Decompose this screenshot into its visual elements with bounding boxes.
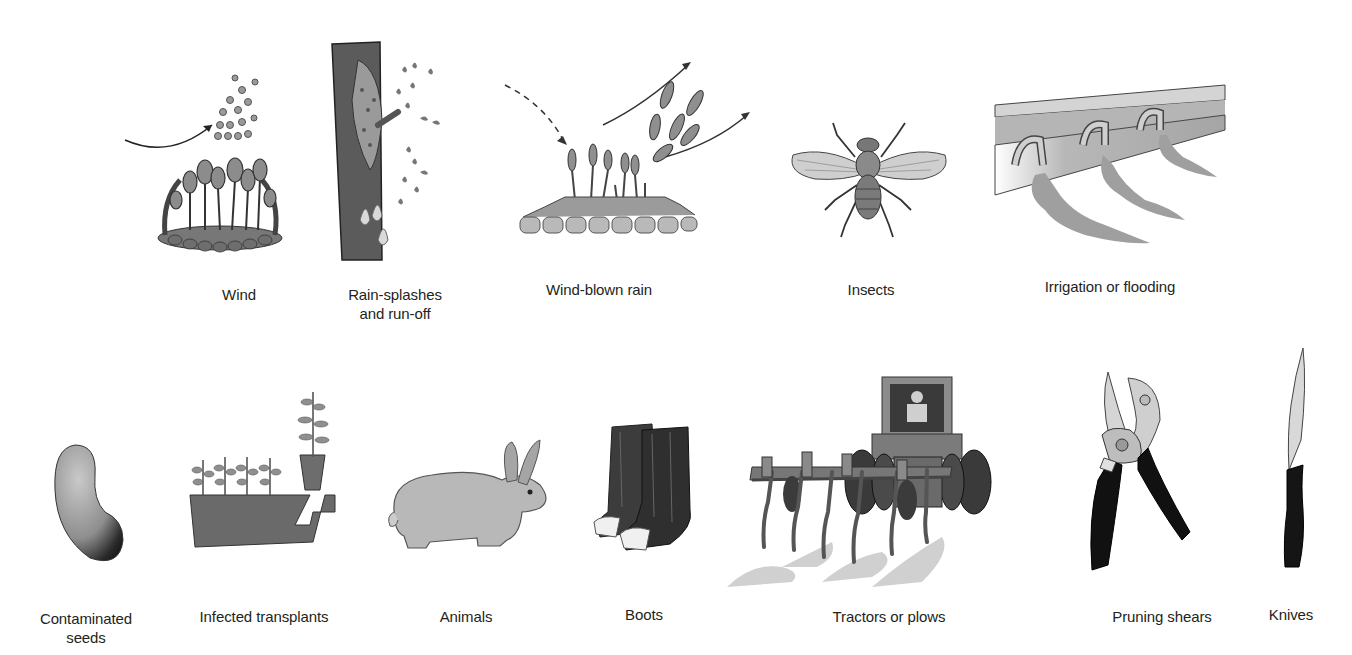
tractors-label: Tractors or plows [833, 607, 946, 626]
boots-panel [590, 422, 700, 557]
insects-label: Insects [848, 280, 895, 299]
irrigation-label: Irrigation or flooding [1045, 277, 1175, 296]
rain-splashes-panel [320, 30, 480, 260]
animals-panel [382, 440, 557, 555]
seedling-tray-icon [185, 382, 345, 557]
seeds-label-line-2: seeds [40, 628, 132, 647]
boots-icon [590, 422, 700, 557]
rabbit-icon [382, 440, 557, 555]
rain-splashes-label-line-1: Rain-splashes [348, 285, 442, 304]
wind-blown-rain-label: Wind-blown rain [546, 280, 652, 299]
shears-label: Pruning shears [1112, 607, 1212, 626]
seeds-label: Contaminated seeds [40, 609, 132, 647]
seeds-panel [45, 440, 135, 570]
spores-dispersed-by-wind-icon [120, 70, 320, 260]
bean-seed-icon [45, 440, 135, 570]
fly-icon [785, 115, 955, 245]
insects-panel [785, 115, 955, 245]
transplants-label: Infected transplants [200, 607, 329, 626]
knife-icon [1265, 345, 1315, 570]
wind-panel [120, 70, 320, 260]
wind-label: Wind [222, 285, 256, 304]
shears-panel [1080, 370, 1205, 575]
wind-blown-rain-panel [505, 45, 755, 245]
boots-label: Boots [625, 605, 663, 624]
pruning-shears-icon [1080, 370, 1205, 575]
transplants-panel [185, 382, 345, 557]
rain-splashes-label: Rain-splashes and run-off [348, 285, 442, 323]
knives-label: Knives [1269, 605, 1313, 624]
animals-label: Animals [440, 607, 493, 626]
tractor-plow-icon [722, 372, 1032, 592]
knives-panel [1265, 345, 1315, 570]
seeds-label-line-1: Contaminated [40, 609, 132, 628]
wind-blown-spores-icon [505, 45, 755, 245]
irrigation-panel [995, 85, 1225, 260]
tractors-panel [722, 372, 1032, 592]
rain-splash-on-stem-icon [320, 30, 480, 260]
irrigation-pipe-icon [995, 85, 1225, 260]
rain-splashes-label-line-2: and run-off [348, 304, 442, 323]
